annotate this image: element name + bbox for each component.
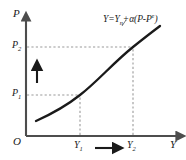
y-tick-p2-sub: 2: [18, 45, 21, 52]
x-tick-label-y2: Y2: [127, 140, 136, 153]
x-axis-label: Y: [170, 139, 176, 150]
aggregate-supply-figure: P Y O P2 P1 Y1 Y2 Y=Yn+α(P-Pe): [0, 0, 186, 160]
y-tick-label-p1: P1: [12, 88, 21, 101]
aggregate-supply-curve: [36, 26, 160, 121]
x-tick-label-y1: Y1: [74, 140, 83, 153]
y-tick-p1-sub: 1: [18, 93, 21, 100]
curve-equation-label: Y=Yn+α(P-Pe): [103, 13, 157, 27]
x-tick-y2-sub: 2: [133, 145, 136, 152]
figure-canvas: [0, 0, 186, 160]
equation-close-paren: ): [154, 14, 157, 24]
y-axis-label: P: [13, 8, 20, 19]
origin-label: O: [13, 136, 21, 147]
y-tick-label-p2: P2: [12, 40, 21, 53]
x-tick-y1-sub: 1: [80, 145, 83, 152]
